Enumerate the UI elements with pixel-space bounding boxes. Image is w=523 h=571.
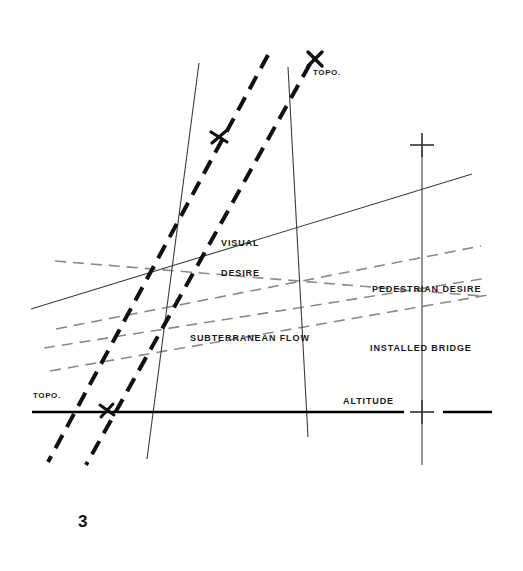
label-installed-bridge: INSTALLED BRIDGE <box>370 343 472 353</box>
label-altitude: ALTITUDE <box>343 396 394 406</box>
label-pedestrian-desire: PEDESTRIAN DESIRE <box>372 284 481 294</box>
thin-steep-line-left <box>147 63 199 459</box>
label-subterranean-flow: SUBTERRANEAN FLOW <box>190 333 310 343</box>
label-visual-desire-line2: DESIRE <box>221 268 260 278</box>
label-visual-desire-line1: VISUAL <box>221 238 260 248</box>
label-visual-desire: VISUAL DESIRE <box>221 218 260 299</box>
figure-page: VISUAL DESIRE PEDESTRIAN DESIRE SUBTERRA… <box>0 0 523 571</box>
thin-steep-line-right <box>288 67 308 437</box>
plus-marker-bridge-baseline-icon <box>410 400 434 424</box>
figure-number: 3 <box>78 512 87 532</box>
label-topo-top: TOPO. <box>313 69 341 78</box>
topo-dashed-heavy-right-line <box>86 64 310 465</box>
x-marker-topo-top-icon <box>308 52 322 66</box>
x-marker-topo-mid-icon <box>211 131 227 143</box>
plus-marker-bridge-top-icon <box>410 133 434 157</box>
x-marker-topo-baseline-icon <box>100 404 114 417</box>
label-topo-bottom: TOPO. <box>33 392 61 401</box>
